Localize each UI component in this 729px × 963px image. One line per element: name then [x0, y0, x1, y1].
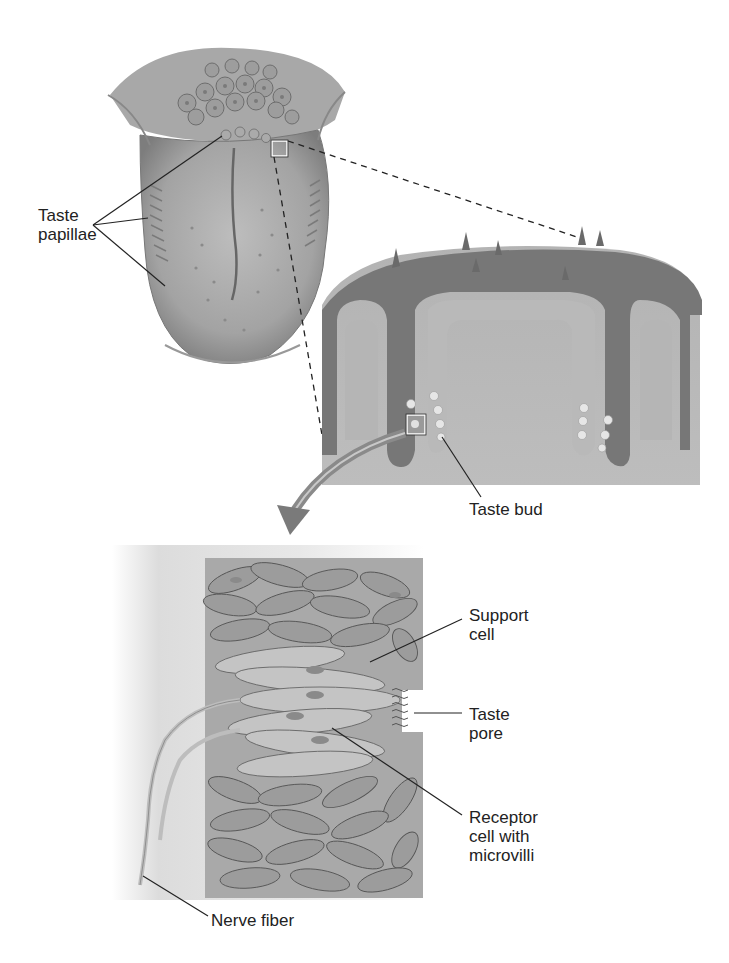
label-line: Nerve fiber [211, 911, 294, 930]
label-support-cell: Support cell [469, 606, 529, 644]
taste-bud-detail-illustration [112, 545, 424, 900]
label-line: cell with [469, 827, 538, 846]
label-receptor-cell: Receptor cell with microvilli [469, 808, 538, 865]
label-line: papillae [38, 225, 97, 244]
label-line: Taste bud [469, 500, 543, 519]
figure-artwork [0, 0, 729, 963]
label-nerve-fiber: Nerve fiber [211, 911, 294, 930]
label-taste-papillae: Taste papillae [38, 206, 97, 244]
label-line: microvilli [469, 846, 538, 865]
label-line: Support [469, 606, 529, 625]
label-taste-bud: Taste bud [469, 500, 543, 519]
label-taste-pore: Taste pore [469, 705, 510, 743]
label-line: Taste [469, 705, 510, 724]
label-line: pore [469, 724, 510, 743]
label-line: Receptor [469, 808, 538, 827]
label-line: cell [469, 625, 529, 644]
label-line: Taste [38, 206, 97, 225]
tongue-illustration [108, 48, 345, 364]
taste-anatomy-figure: Taste papillae Taste bud Support cell Ta… [0, 0, 729, 963]
